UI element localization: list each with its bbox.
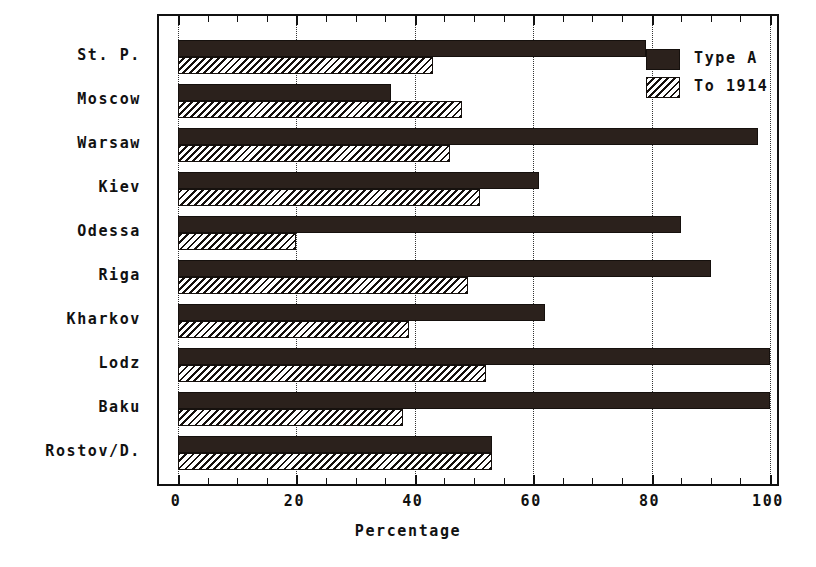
y-axis-label-lodz: Lodz [98, 354, 141, 372]
legend-item-to-1914: To 1914 [646, 74, 796, 102]
bar-to-1914 [178, 101, 462, 118]
bar-type-a [178, 216, 681, 233]
x-tick-label-20: 20 [284, 492, 305, 510]
bar-to-1914 [178, 321, 409, 338]
bar-type-a [178, 40, 646, 57]
bar-type-a [178, 128, 758, 145]
bar-row [159, 170, 781, 214]
bar-type-a [178, 392, 770, 409]
x-tick-label-100: 100 [752, 492, 784, 510]
x-tick-label-0: 0 [171, 492, 182, 510]
y-axis-label-kiev: Kiev [98, 178, 141, 196]
bar-chart: St. P.MoscowWarsawKievOdessaRigaKharkovL… [0, 0, 816, 567]
y-axis-label-kharkov: Kharkov [67, 310, 141, 328]
bar-row [159, 434, 781, 478]
bar-row [159, 258, 781, 302]
bar-type-a [178, 172, 539, 189]
x-tick-label-60: 60 [521, 492, 542, 510]
bar-to-1914 [178, 145, 450, 162]
bar-to-1914 [178, 189, 480, 206]
bar-to-1914 [178, 233, 296, 250]
legend-item-type-a: Type A [646, 46, 796, 74]
bar-type-a [178, 304, 545, 321]
y-axis-label-st-p: St. P. [77, 46, 141, 64]
plot-area: Type A To 1914 [157, 14, 779, 486]
bar-row [159, 214, 781, 258]
y-axis-label-baku: Baku [98, 398, 141, 416]
y-axis-label-odessa: Odessa [77, 222, 141, 240]
bar-type-a [178, 260, 711, 277]
y-axis-label-rostov-d: Rostov/D. [45, 442, 141, 460]
bar-row [159, 302, 781, 346]
y-axis-label-moscow: Moscow [77, 90, 141, 108]
bar-to-1914 [178, 277, 468, 294]
x-tick-label-80: 80 [639, 492, 660, 510]
x-tick-label-40: 40 [402, 492, 423, 510]
chart-legend: Type A To 1914 [646, 46, 796, 102]
bar-row [159, 346, 781, 390]
y-axis-label-warsaw: Warsaw [77, 134, 141, 152]
bar-to-1914 [178, 453, 492, 470]
x-axis-title: Percentage [0, 522, 816, 540]
bar-to-1914 [178, 365, 486, 382]
bar-type-a [178, 348, 770, 365]
bar-to-1914 [178, 57, 433, 74]
legend-label-to-1914: To 1914 [694, 77, 768, 95]
x-axis-tick-labels: 020406080100 [157, 492, 779, 518]
hatched-swatch-icon [646, 77, 680, 98]
bar-type-a [178, 436, 492, 453]
legend-label-type-a: Type A [694, 49, 758, 67]
y-axis-category-labels: St. P.MoscowWarsawKievOdessaRigaKharkovL… [0, 14, 150, 486]
bar-type-a [178, 84, 391, 101]
bar-row [159, 390, 781, 434]
bar-to-1914 [178, 409, 403, 426]
solid-swatch-icon [646, 49, 680, 70]
y-axis-label-riga: Riga [98, 266, 141, 284]
bar-row [159, 126, 781, 170]
